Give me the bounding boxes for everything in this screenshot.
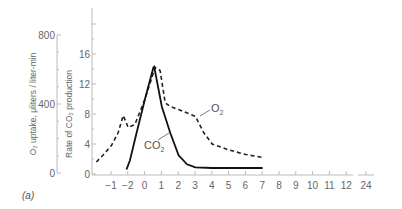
x-tick-label: 1 — [159, 180, 165, 191]
x-tick-label: 4 — [209, 180, 215, 191]
x-tick-label: −1 — [105, 180, 117, 191]
x-tick-label: 7 — [259, 180, 265, 191]
right-y-tick-label: 0 — [84, 169, 90, 180]
x-tick-label: 3 — [192, 180, 198, 191]
left-y-axis-title: O₂ uptake, μliters / liter-min — [28, 52, 38, 155]
o2-series-line — [96, 68, 262, 163]
svg-text:CO2: CO2 — [144, 139, 165, 153]
svg-text:O2: O2 — [211, 102, 224, 116]
x-tick-label: 9 — [293, 180, 299, 191]
co2-series-label: CO2 — [144, 133, 169, 153]
x-tick-label: 12 — [341, 180, 353, 191]
left-y-axis: 0400800 O₂ uptake, μliters / liter-min — [28, 30, 61, 179]
o2-series-label: O2 — [200, 102, 224, 116]
x-tick-label: 24 — [360, 180, 372, 191]
right-y-tick-label: 4 — [84, 139, 90, 150]
right-y-tick-label: 8 — [84, 109, 90, 120]
x-tick-label: 10 — [307, 180, 319, 191]
x-tick-label: 2 — [175, 180, 181, 191]
x-tick-label: −2 — [122, 180, 134, 191]
x-tick-label: 0 — [142, 180, 148, 191]
x-tick-label: 6 — [243, 180, 249, 191]
x-tick-label: 11 — [324, 180, 335, 191]
x-axis: −1−2012345678910111224 — [92, 171, 374, 191]
right-y-axis-title: Rate of CO₂ production — [64, 70, 74, 158]
left-y-tick-label: 0 — [49, 168, 55, 179]
x-tick-label: 5 — [226, 180, 232, 191]
right-y-axis: 0481216 Rate of CO₂ production — [64, 8, 96, 180]
left-y-tick-label: 400 — [38, 99, 55, 110]
panel-label: (a) — [22, 190, 34, 201]
co2-series-line — [127, 67, 263, 170]
right-y-tick-label: 12 — [79, 79, 91, 90]
chart: 0400800 O₂ uptake, μliters / liter-min 0… — [0, 0, 402, 209]
left-y-tick-label: 800 — [38, 30, 55, 41]
right-y-tick-label: 16 — [79, 49, 91, 60]
x-tick-label: 8 — [276, 180, 282, 191]
